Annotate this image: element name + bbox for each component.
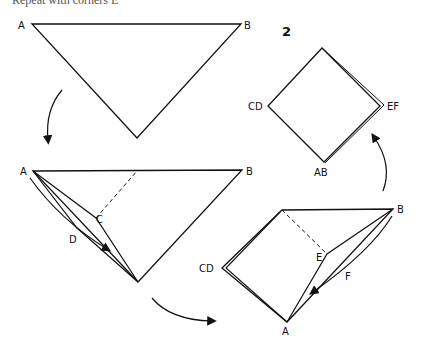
label-b: B (244, 20, 251, 31)
arrow-right-icon (152, 298, 212, 321)
label-cd: CD (248, 101, 263, 112)
label-cd: CD (199, 263, 214, 274)
label-e: E (316, 252, 322, 263)
figure-1-triangle: A B (18, 20, 251, 138)
origami-diagram: A B 2 A B C D CD B E F A CD EF AB (0, 0, 423, 351)
label-ab: AB (314, 167, 328, 178)
label-a: A (20, 166, 27, 177)
label-b: B (246, 166, 253, 177)
figure-4-diamond: CD EF AB (248, 48, 399, 178)
figure-3-folding: CD B E F A (199, 204, 404, 337)
label-c: C (96, 214, 103, 225)
label-b: B (397, 204, 404, 215)
label-f: F (345, 271, 351, 282)
label-ef: EF (387, 101, 399, 112)
figure-2-folding: A B C D (20, 166, 253, 282)
label-a: A (282, 326, 289, 337)
arrow-up-icon (374, 137, 386, 191)
label-d: D (69, 234, 77, 245)
step-number: 2 (282, 24, 291, 39)
label-a: A (18, 20, 25, 31)
arrow-down-icon (48, 90, 62, 140)
